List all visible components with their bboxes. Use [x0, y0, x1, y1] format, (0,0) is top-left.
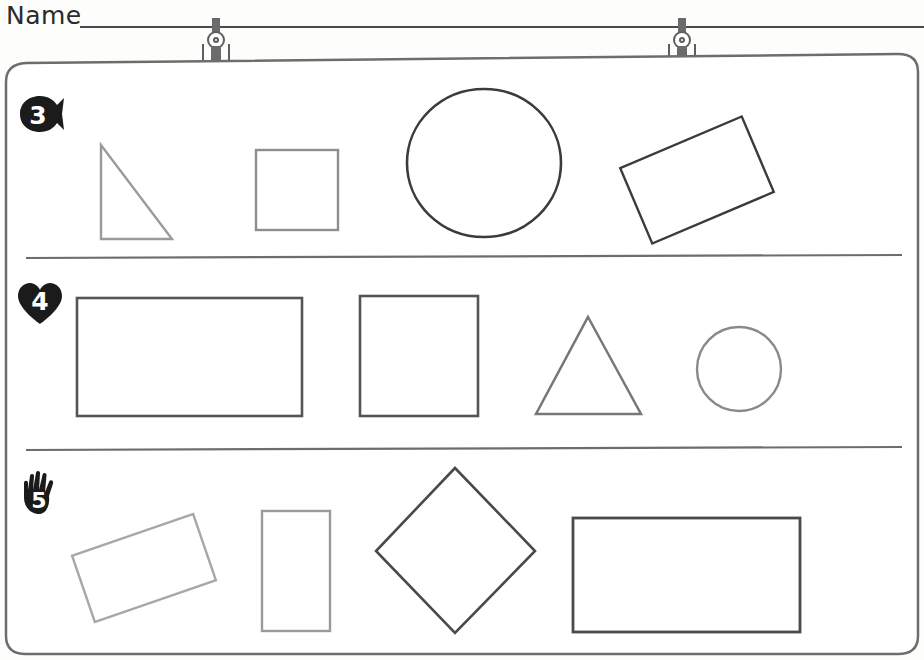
row-marker-number: 5 [31, 488, 46, 513]
row-marker-number: 3 [29, 101, 46, 130]
name-label: Name [6, 1, 82, 30]
board-frame [4, 52, 920, 656]
name-header: Name [0, 0, 924, 34]
worksheet-page: Name 3 4 [0, 0, 924, 660]
activity-board [4, 52, 920, 656]
row-marker-fish-3: 3 [14, 88, 66, 140]
clip-ring-inner-icon [679, 37, 685, 43]
row-marker-number: 4 [31, 287, 48, 316]
row-marker-heart-4: 4 [14, 278, 66, 330]
row-marker-hand-5: 5 [14, 468, 66, 520]
clip-ring-inner-icon [213, 37, 219, 43]
